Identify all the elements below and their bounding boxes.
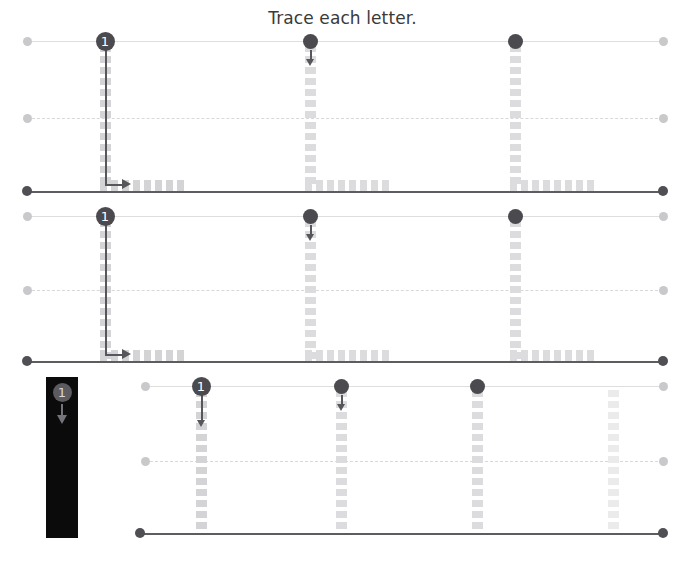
stem-dash bbox=[305, 308, 316, 315]
stem-dash bbox=[608, 456, 619, 463]
stem-dash bbox=[472, 412, 483, 419]
stem-dash bbox=[608, 401, 619, 408]
stem-dash bbox=[510, 286, 521, 293]
foot-dash bbox=[576, 180, 583, 191]
stroke-path-vertical bbox=[105, 41, 107, 185]
stem-dash bbox=[305, 319, 316, 326]
stem-dash bbox=[336, 412, 347, 419]
stem-dash bbox=[196, 500, 207, 507]
page-title: Trace each letter. bbox=[0, 8, 685, 28]
foot-dash bbox=[177, 180, 184, 191]
guide-endpoint-dot-left bbox=[23, 212, 32, 221]
foot-dash bbox=[133, 180, 140, 191]
stem-dash bbox=[196, 456, 207, 463]
stem-dash bbox=[608, 445, 619, 452]
foot-dash bbox=[554, 180, 561, 191]
stroke-start-dot bbox=[508, 34, 523, 49]
stem-dash bbox=[305, 166, 316, 173]
stem-dash bbox=[196, 522, 207, 529]
stem-dash bbox=[510, 100, 521, 107]
guide-rule-mid bbox=[145, 461, 663, 462]
guide-rule-base bbox=[27, 361, 663, 363]
stem-dash bbox=[336, 434, 347, 441]
stem-dash bbox=[608, 390, 619, 397]
foot-dash bbox=[521, 350, 528, 361]
foot-dash bbox=[166, 350, 173, 361]
stem-dash bbox=[510, 253, 521, 260]
guide-endpoint-dot-right bbox=[658, 356, 668, 366]
stem-dash bbox=[510, 133, 521, 140]
foot-dash bbox=[543, 180, 550, 191]
guide-rule-mid bbox=[27, 290, 663, 291]
stroke-start-dot bbox=[334, 379, 349, 394]
foot-dash bbox=[587, 180, 594, 191]
foot-dash bbox=[587, 350, 594, 361]
stem-dash bbox=[472, 423, 483, 430]
stem-dash bbox=[196, 511, 207, 518]
foot-dash bbox=[371, 350, 378, 361]
stem-dash bbox=[510, 67, 521, 74]
guide-rule-mid bbox=[27, 118, 663, 119]
guide-endpoint-dot-right bbox=[659, 37, 668, 46]
stem-dash bbox=[472, 456, 483, 463]
foot-dash bbox=[349, 350, 356, 361]
stroke-path-horizontal bbox=[105, 354, 123, 356]
stroke-start-dot bbox=[303, 209, 318, 224]
stem-dash bbox=[472, 434, 483, 441]
foot-dash bbox=[360, 350, 367, 361]
stem-dash bbox=[472, 522, 483, 529]
direction-arrow bbox=[304, 225, 317, 241]
stem-dash bbox=[472, 478, 483, 485]
letter-stem bbox=[510, 41, 521, 191]
foot-dash bbox=[316, 350, 323, 361]
guide-rule-base bbox=[140, 533, 663, 535]
down-arrow-icon bbox=[306, 234, 314, 241]
guide-endpoint-dot-right bbox=[659, 114, 668, 123]
letter-foot bbox=[305, 350, 397, 361]
down-arrow-icon bbox=[337, 404, 345, 411]
foot-dash bbox=[327, 350, 334, 361]
letter-foot bbox=[510, 180, 595, 191]
guide-rule-top bbox=[27, 41, 663, 42]
right-arrow-icon bbox=[122, 349, 131, 359]
stem-dash bbox=[305, 111, 316, 118]
stem-dash bbox=[305, 264, 316, 271]
stem-dash bbox=[336, 500, 347, 507]
demo-stroke-order-marker: 1 bbox=[53, 383, 72, 402]
stem-dash bbox=[510, 308, 521, 315]
stem-dash bbox=[336, 489, 347, 496]
stem-dash bbox=[510, 122, 521, 129]
foot-dash bbox=[327, 180, 334, 191]
stroke-order-marker: 1 bbox=[96, 207, 115, 226]
stem-dash bbox=[472, 500, 483, 507]
stroke-start-dot bbox=[508, 209, 523, 224]
stem-dash bbox=[305, 67, 316, 74]
foot-dash bbox=[305, 180, 312, 191]
stem-dash bbox=[608, 511, 619, 518]
letter-foot bbox=[305, 180, 397, 191]
letter-stem bbox=[472, 386, 483, 533]
foot-dash bbox=[305, 350, 312, 361]
down-arrow-icon bbox=[197, 420, 205, 427]
foot-dash bbox=[532, 180, 539, 191]
stem-dash bbox=[336, 445, 347, 452]
guide-endpoint-dot-left bbox=[23, 37, 32, 46]
stem-dash bbox=[510, 242, 521, 249]
stem-dash bbox=[510, 297, 521, 304]
foot-dash bbox=[382, 180, 389, 191]
stem-dash bbox=[472, 511, 483, 518]
foot-dash bbox=[521, 180, 528, 191]
direction-arrow bbox=[335, 395, 348, 411]
down-arrow-icon bbox=[306, 59, 314, 66]
foot-dash bbox=[316, 180, 323, 191]
stroke-start-dot bbox=[470, 379, 485, 394]
stroke-path-vertical bbox=[105, 216, 107, 355]
stem-dash bbox=[305, 133, 316, 140]
foot-dash bbox=[177, 350, 184, 361]
stem-dash bbox=[196, 467, 207, 474]
guide-endpoint-dot-left bbox=[141, 457, 150, 466]
foot-dash bbox=[144, 350, 151, 361]
stroke-demo-panel: 1 bbox=[46, 377, 78, 538]
direction-arrow bbox=[304, 50, 317, 66]
stem-dash bbox=[196, 445, 207, 452]
